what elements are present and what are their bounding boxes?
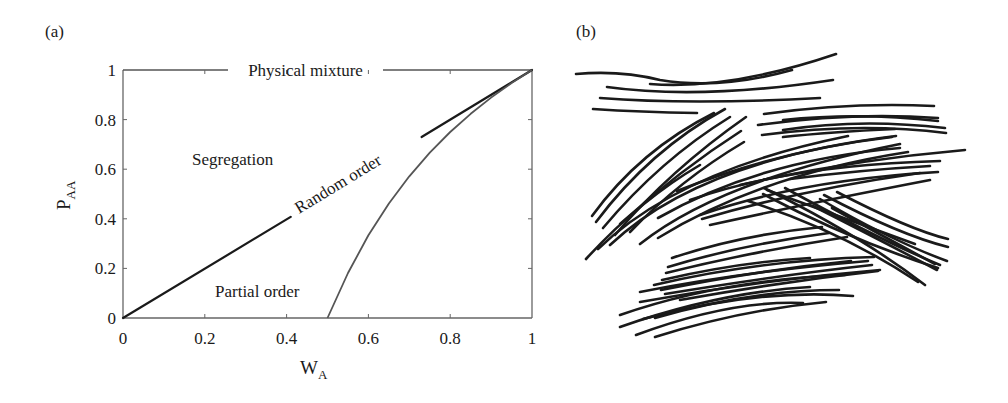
svg-text:0.6: 0.6 — [358, 329, 379, 348]
svg-text:1: 1 — [108, 61, 117, 80]
y-tick-labels: 0 0.2 0.4 0.6 0.8 1 — [95, 61, 117, 328]
svg-text:0.4: 0.4 — [276, 329, 298, 348]
label-partial-order: Partial order — [215, 282, 300, 301]
label-physical-mixture: Physical mixture — [248, 61, 363, 80]
svg-text:0.4: 0.4 — [95, 210, 117, 229]
svg-text:0.2: 0.2 — [95, 259, 116, 278]
svg-text:0.8: 0.8 — [95, 111, 116, 130]
partial-order-curve — [328, 70, 533, 318]
x-tick-labels: 0 0.2 0.4 0.6 0.8 1 — [119, 329, 537, 348]
svg-text:0: 0 — [119, 329, 128, 348]
chart-svg: (a) — [0, 0, 560, 403]
fiber-sketch-svg: (b) — [560, 0, 1008, 403]
fiber-strands — [576, 54, 965, 337]
svg-text:0.8: 0.8 — [440, 329, 461, 348]
svg-text:Random order: Random order — [291, 150, 385, 217]
x-axis-label: WA — [300, 357, 328, 382]
y-axis-label: PAA — [53, 180, 78, 210]
label-segregation: Segregation — [192, 150, 274, 169]
svg-text:0.6: 0.6 — [95, 160, 116, 179]
svg-text:PAA: PAA — [53, 180, 78, 210]
svg-text:0: 0 — [108, 309, 117, 328]
label-random-order: Random order — [291, 150, 385, 217]
svg-text:1: 1 — [528, 329, 537, 348]
panel-a-chart: (a) — [0, 0, 560, 403]
panel-b-illustration: (b) — [560, 0, 1008, 403]
panel-label-b: (b) — [576, 22, 596, 41]
svg-text:0.2: 0.2 — [194, 329, 215, 348]
panel-label-a: (a) — [45, 22, 64, 41]
